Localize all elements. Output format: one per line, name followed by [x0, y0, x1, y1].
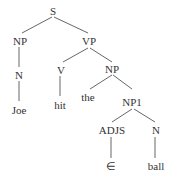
- edge-np-the: [90, 75, 112, 89]
- edge-np1-adjs: [112, 109, 132, 122]
- node-n-object: N: [152, 124, 160, 136]
- node-adjs: ADJS: [99, 124, 125, 136]
- edge-np-np1: [113, 75, 132, 89]
- edge-vp-np: [90, 48, 112, 62]
- leaf-joe: Joe: [12, 104, 27, 116]
- node-vp: VP: [82, 35, 96, 47]
- edge-s-np: [22, 17, 52, 33]
- node-n-subject: N: [15, 69, 23, 81]
- edge-np1-n: [134, 109, 155, 122]
- edge-vp-v: [63, 48, 88, 62]
- node-np-subject: NP: [13, 35, 27, 47]
- leaf-hit: hit: [54, 99, 66, 111]
- node-v: V: [57, 64, 65, 76]
- tree-labels: S NP VP N V NP Joe hit the NP1 ADJS N ∈ …: [12, 5, 165, 172]
- leaf-epsilon: ∈: [106, 160, 116, 172]
- node-np1: NP1: [122, 96, 142, 108]
- edge-s-vp: [54, 17, 88, 33]
- leaf-the: the: [81, 91, 95, 103]
- node-np-object: NP: [105, 63, 119, 75]
- node-s: S: [50, 5, 56, 17]
- syntax-tree: S NP VP N V NP Joe hit the NP1 ADJS N ∈ …: [0, 0, 172, 181]
- leaf-ball: ball: [148, 160, 165, 172]
